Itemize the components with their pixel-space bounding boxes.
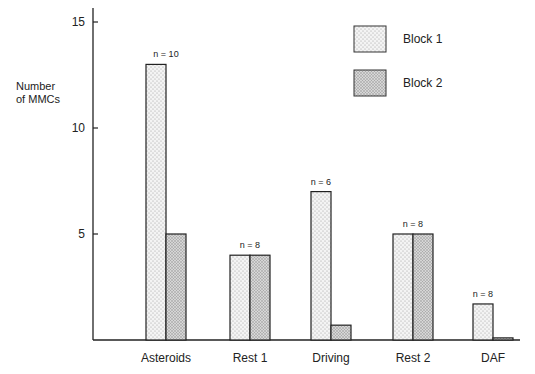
- sample-size-annotation: n = 8: [473, 289, 493, 299]
- x-tick-label: Asteroids: [141, 351, 191, 365]
- legend-swatch-1: [354, 26, 386, 52]
- bar-block-2: [331, 325, 351, 340]
- bar-block-1: [230, 255, 250, 340]
- y-tick-label: 5: [78, 227, 85, 241]
- legend-label-2: Block 2: [403, 76, 443, 90]
- x-tick-label: DAF: [481, 351, 505, 365]
- bars: n = 10Asteroidsn = 8Rest 1n = 6Drivingn …: [141, 49, 513, 365]
- bar-block-1: [146, 64, 166, 340]
- bar-block-2: [493, 338, 513, 340]
- bar-block-1: [473, 304, 493, 340]
- y-axis-label: Number: [16, 80, 55, 92]
- sample-size-annotation: n = 10: [153, 49, 178, 59]
- sample-size-annotation: n = 6: [311, 177, 331, 187]
- bar-block-2: [250, 255, 270, 340]
- x-tick-label: Rest 2: [396, 351, 431, 365]
- y-tick-label: 10: [72, 121, 86, 135]
- y-axis-label: of MMCs: [16, 93, 61, 105]
- sample-size-annotation: n = 8: [403, 219, 423, 229]
- bar-block-2: [413, 234, 433, 340]
- bar-block-2: [166, 234, 186, 340]
- legend-label-1: Block 1: [403, 32, 443, 46]
- bar-chart: 51015Numberof MMCs n = 10Asteroidsn = 8R…: [0, 0, 535, 374]
- legend-swatch-2: [354, 70, 386, 96]
- sample-size-annotation: n = 8: [240, 240, 260, 250]
- x-tick-label: Driving: [312, 351, 349, 365]
- bar-block-1: [393, 234, 413, 340]
- y-tick-label: 15: [72, 15, 86, 29]
- legend: Block 1Block 2: [354, 26, 443, 96]
- bar-block-1: [311, 192, 331, 340]
- x-tick-label: Rest 1: [233, 351, 268, 365]
